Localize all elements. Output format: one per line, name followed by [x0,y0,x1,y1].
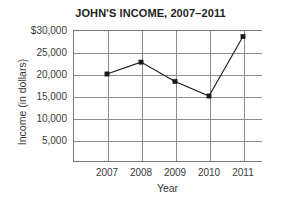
y-axis-tick-label: 15,000 [36,91,67,102]
y-axis-tick-label: 25,000 [36,47,67,58]
y-axis-tick-label: 5,000 [42,135,67,146]
gridline-vertical [210,31,211,161]
gridline-vertical [244,31,245,161]
gridline-horizontal [74,141,262,142]
plot-area [73,30,262,162]
x-axis-tick-label: 2011 [232,167,254,178]
gridline-horizontal [74,119,262,120]
x-axis-tick-label: 2008 [130,167,152,178]
income-line-chart: JOHN'S INCOME, 2007–2011 5,00010,00015,0… [0,0,301,208]
x-axis-title: Year [73,182,262,194]
chart-title: JOHN'S INCOME, 2007–2011 [0,7,301,19]
y-axis-tick-label: 20,000 [36,69,67,80]
y-axis-title: Income (in dollars) [16,37,28,167]
x-axis-tick-label: 2009 [164,167,186,178]
gridline-horizontal [74,75,262,76]
y-axis-tick-label: $30,000 [31,25,67,36]
gridline-vertical [176,31,177,161]
x-axis-tick-label: 2010 [198,167,220,178]
gridline-vertical [108,31,109,161]
x-axis-tick-label: 2007 [96,167,118,178]
gridline-horizontal [74,53,262,54]
gridline-horizontal [74,97,262,98]
gridline-vertical [142,31,143,161]
y-axis-tick-label: 10,000 [36,113,67,124]
